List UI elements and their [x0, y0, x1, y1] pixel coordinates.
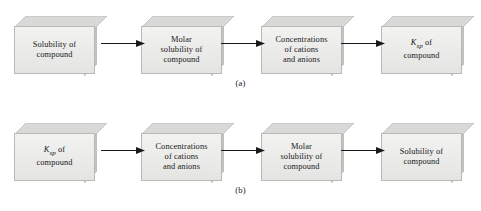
ksp-compound-text: compound — [403, 51, 439, 60]
flow-box-label: Concentrations of cations and anions — [273, 35, 329, 66]
flow-box-label: Concentrations of cations and anions — [153, 142, 209, 173]
flow-box-label: Solubility of compound — [398, 147, 445, 167]
flow-box-label: Molar solubility of compound — [278, 142, 324, 173]
ksp-of-text: of — [423, 38, 432, 47]
box-front-face: Ksp ofcompound — [381, 26, 462, 74]
box-front-face: Concentrations of cations and anions — [141, 133, 222, 181]
figure-caption-b: (b) — [0, 185, 481, 195]
flow-box-b-ksp: Ksp ofcompound — [14, 123, 97, 183]
flow-row-b: Ksp ofcompound Concentrations of cations… — [0, 113, 481, 185]
flow-box-a-solubility: Solubility of compound — [14, 16, 97, 76]
figure-caption-a: (a) — [0, 78, 481, 88]
box-front-face: Concentrations of cations and anions — [261, 26, 342, 74]
flow-row-a: Solubility of compound Molar solubility … — [0, 6, 481, 78]
flow-box-b-molar-solubility: Molar solubility of compound — [261, 123, 344, 183]
box-front-face: Solubility of compound — [14, 26, 95, 74]
flow-box-a-concentrations: Concentrations of cations and anions — [261, 16, 344, 76]
box-front-face: Ksp ofcompound — [14, 133, 95, 181]
solubility-ksp-flow-diagram: Solubility of compound Molar solubility … — [0, 0, 481, 211]
flow-arrow-a-1 — [101, 39, 145, 48]
flow-box-label-ksp: Ksp ofcompound — [401, 38, 441, 61]
flow-box-b-solubility: Solubility of compound — [381, 123, 464, 183]
flow-box-a-ksp: Ksp ofcompound — [381, 16, 464, 76]
ksp-compound-text: compound — [36, 158, 72, 167]
box-front-face: Molar solubility of compound — [261, 133, 342, 181]
flow-box-label-ksp: Ksp ofcompound — [34, 145, 74, 168]
flow-arrow-b-3 — [341, 146, 385, 155]
flow-box-label: Molar solubility of compound — [158, 35, 204, 66]
flow-arrow-a-2 — [221, 39, 265, 48]
flow-box-label: Solubility of compound — [31, 40, 78, 60]
flow-box-a-molar-solubility: Molar solubility of compound — [141, 16, 224, 76]
flow-box-b-concentrations: Concentrations of cations and anions — [141, 123, 224, 183]
box-front-face: Molar solubility of compound — [141, 26, 222, 74]
ksp-of-text: of — [56, 145, 65, 154]
box-front-face: Solubility of compound — [381, 133, 462, 181]
flow-arrow-a-3 — [341, 39, 385, 48]
flow-arrow-b-2 — [221, 146, 265, 155]
flow-arrow-b-1 — [101, 146, 145, 155]
